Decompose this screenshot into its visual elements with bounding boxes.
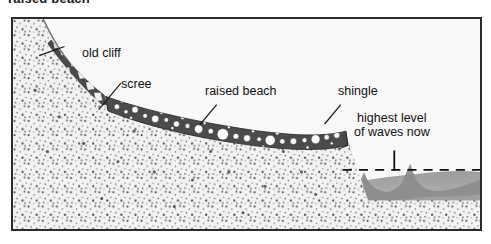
label-scree: scree — [121, 78, 152, 91]
label-highest-level-line1: highest level — [354, 111, 430, 125]
label-highest-level-line2: of waves now — [354, 125, 430, 139]
figure-caption: raised beach — [8, 0, 90, 6]
figure-frame: old cliff scree raised beach shingle hig… — [11, 17, 482, 231]
label-old-cliff: old cliff — [82, 47, 121, 60]
label-highest-level-of-waves: highest level of waves now — [354, 111, 430, 139]
label-shingle: shingle — [338, 85, 378, 98]
diagram-stage: raised beach — [0, 0, 491, 244]
label-raised-beach: raised beach — [205, 85, 277, 98]
figure-canvas: old cliff scree raised beach shingle hig… — [13, 19, 480, 229]
